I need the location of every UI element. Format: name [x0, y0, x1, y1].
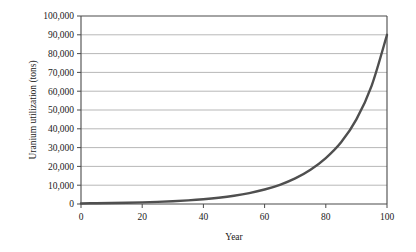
x-axis-title: Year	[225, 232, 243, 242]
y-tick-label: 50,000	[48, 105, 74, 115]
y-tick-label: 10,000	[48, 181, 74, 191]
y-tick-label: 90,000	[48, 30, 74, 40]
y-tick-label: 30,000	[48, 143, 74, 153]
y-tick-label: 20,000	[48, 162, 74, 172]
y-axis-title: Uranium utilization (tons)	[28, 60, 39, 159]
y-tick-label: 100,000	[43, 11, 74, 21]
x-tick-label: 80	[321, 212, 331, 222]
y-tick-label: 0	[69, 199, 74, 209]
x-tick-label: 40	[199, 212, 209, 222]
chart-figure: 010,00020,00030,00040,00050,00060,00070,…	[0, 0, 416, 252]
uranium-utilization-line-chart: 010,00020,00030,00040,00050,00060,00070,…	[0, 0, 416, 252]
x-tick-label: 0	[79, 212, 84, 222]
x-tick-label: 60	[260, 212, 270, 222]
x-tick-label: 100	[380, 212, 395, 222]
y-tick-label: 70,000	[48, 68, 74, 78]
x-tick-label: 20	[137, 212, 147, 222]
y-tick-label: 80,000	[48, 49, 74, 59]
y-tick-label: 60,000	[48, 87, 74, 97]
y-tick-label: 40,000	[48, 124, 74, 134]
